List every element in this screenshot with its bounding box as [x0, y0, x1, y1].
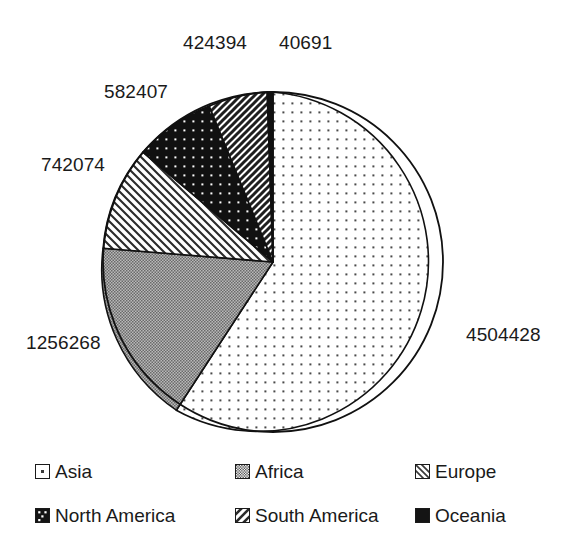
- value-label-south-america: 424394: [183, 33, 247, 52]
- value-label-asia: 4504428: [466, 325, 541, 344]
- legend-label-asia: Asia: [55, 462, 92, 481]
- legend-swatch-asia-icon: [35, 464, 50, 479]
- legend-label-south-america: South America: [255, 506, 379, 525]
- value-label-europe: 742074: [41, 155, 105, 174]
- legend: Asia: [0, 458, 580, 543]
- pie-plot-area: 40691 424394 582407 742074 1256268 45044…: [0, 0, 580, 455]
- pie-svg: [0, 0, 580, 455]
- legend-row: Asia: [0, 458, 580, 494]
- legend-swatch-north-america-icon: [35, 508, 50, 523]
- legend-item-south-america[interactable]: South America: [235, 502, 379, 528]
- legend-item-oceania[interactable]: Oceania: [415, 502, 506, 528]
- value-label-oceania: 40691: [279, 33, 332, 52]
- legend-label-africa: Africa: [255, 462, 304, 481]
- legend-label-north-america: North America: [55, 506, 175, 525]
- pie-chart-figure: 40691 424394 582407 742074 1256268 45044…: [0, 0, 580, 543]
- legend-label-oceania: Oceania: [435, 506, 506, 525]
- legend-item-north-america[interactable]: North America: [35, 502, 175, 528]
- legend-item-asia[interactable]: Asia: [35, 458, 92, 484]
- legend-swatch-africa-icon: [235, 464, 250, 479]
- value-label-north-america: 582407: [104, 82, 168, 101]
- legend-item-africa[interactable]: Africa: [235, 458, 304, 484]
- legend-swatch-south-america-icon: [235, 508, 250, 523]
- legend-swatch-oceania-icon: [415, 508, 430, 523]
- legend-label-europe: Europe: [435, 462, 496, 481]
- legend-item-europe[interactable]: Europe: [415, 458, 496, 484]
- legend-row: North America South America Oceania: [0, 502, 580, 538]
- value-label-africa: 1256268: [26, 333, 101, 352]
- legend-swatch-europe-icon: [415, 464, 430, 479]
